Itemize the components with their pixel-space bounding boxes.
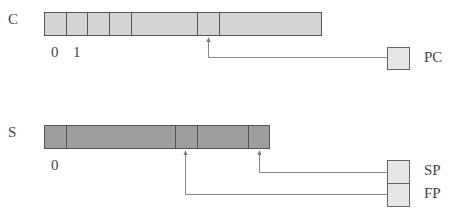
pointer-arrows [0, 0, 458, 220]
arrowhead-icon [207, 37, 211, 42]
sp-arrow [260, 152, 388, 173]
arrowhead-icon [184, 150, 188, 155]
arrowhead-icon [258, 150, 262, 155]
pc-arrow [209, 39, 388, 58]
fp-arrow [186, 152, 388, 195]
